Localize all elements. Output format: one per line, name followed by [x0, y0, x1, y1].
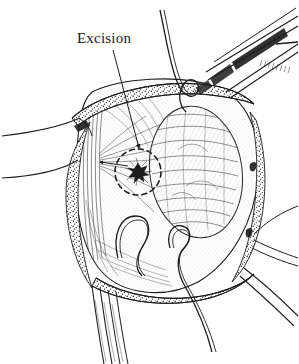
illustration-canvas [0, 0, 299, 364]
surgical-illustration-figure: Excision [0, 0, 299, 364]
excision-label: Excision [77, 30, 131, 47]
